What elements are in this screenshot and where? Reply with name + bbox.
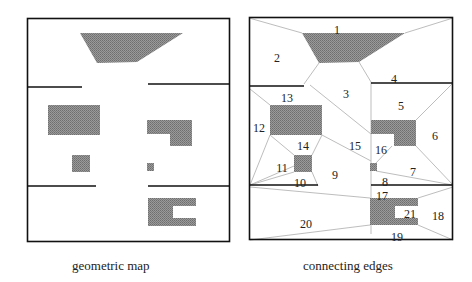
caption-connecting-edges: connecting edges [303,258,393,274]
region-label-5: 5 [398,99,404,113]
region-label-17: 17 [376,189,388,203]
region-label-19: 19 [391,230,403,244]
obstacle-tiny [370,163,377,171]
region-label-1: 1 [334,23,340,37]
region-label-11: 11 [276,161,288,175]
obstacle-small [294,155,312,172]
region-label-21: 21 [404,207,416,221]
obstacle-c-shape [148,198,196,226]
caption-geometric-map: geometric map [72,258,150,274]
diagram-canvas: 123456789101112131415161718192021 [0,0,472,282]
obstacle-small [72,155,90,172]
region-label-9: 9 [332,168,338,182]
region-label-15: 15 [349,139,361,153]
obstacle-block [48,105,100,135]
obstacle-l-shape [147,120,192,146]
obstacle-tiny [147,163,154,171]
obstacle-block [270,105,322,135]
region-label-16: 16 [375,143,387,157]
region-label-6: 6 [432,129,438,143]
region-label-7: 7 [410,165,416,179]
geometric-map-panel [27,19,230,242]
region-label-3: 3 [343,87,349,101]
region-label-12: 12 [253,121,265,135]
region-label-8: 8 [382,175,388,189]
obstacle-trapezoid [80,33,183,63]
region-label-14: 14 [297,139,309,153]
region-label-2: 2 [274,51,280,65]
region-label-10: 10 [294,176,306,190]
region-label-20: 20 [300,217,312,231]
region-label-4: 4 [391,72,397,86]
region-label-13: 13 [281,91,293,105]
connecting-edges-panel: 123456789101112131415161718192021 [249,18,453,245]
region-label-18: 18 [432,209,444,223]
obstacle-trapezoid [302,33,405,63]
